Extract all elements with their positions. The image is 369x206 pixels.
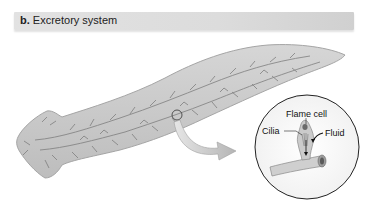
label-cilia: Cilia — [262, 126, 280, 136]
label-fluid: Fluid — [325, 128, 345, 138]
flatworm-diagram — [0, 0, 369, 206]
flame-cell-nucleus — [302, 124, 307, 130]
label-flame-cell: Flame cell — [286, 109, 327, 119]
